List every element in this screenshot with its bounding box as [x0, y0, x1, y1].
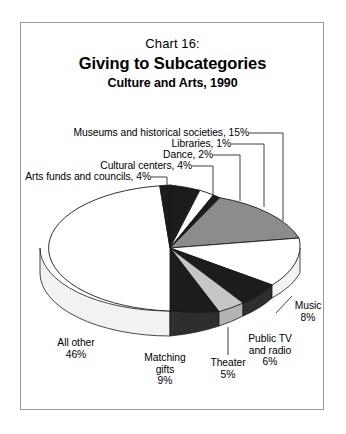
label-matching-line2: gifts — [156, 364, 175, 375]
label-music-name: Music — [295, 300, 322, 311]
leader-dance — [213, 155, 240, 201]
label-theater-name: Theater — [210, 357, 245, 368]
label-public-tv-line2: and radio — [249, 345, 292, 356]
label-dance: Dance, 2% — [103, 149, 213, 161]
label-matching-value: 9% — [158, 375, 173, 386]
label-music: Music 8% — [286, 300, 330, 323]
label-public-tv-line1: Public TV — [248, 333, 291, 344]
label-matching-line1: Matching — [144, 352, 185, 363]
label-theater: Theater 5% — [200, 357, 256, 380]
label-arts-funds: Arts funds and councils, 4% — [21, 171, 151, 183]
label-cultural-centers: Cultural centers, 4% — [72, 160, 192, 172]
leader-arts-funds — [151, 177, 167, 186]
label-libraries: Libraries, 1% — [101, 138, 231, 150]
chart-figure: Chart 16: Giving to Subcategories Cultur… — [0, 0, 346, 434]
label-music-value: 8% — [301, 312, 316, 323]
label-all-other-name: All other — [57, 337, 94, 348]
label-matching-gifts: Matching gifts 9% — [135, 352, 195, 387]
label-museums: Museums and historical societies, 15% — [49, 127, 249, 139]
label-all-other-value: 46% — [66, 349, 86, 360]
leader-libraries — [231, 144, 264, 207]
label-all-other: All other 46% — [45, 337, 107, 360]
label-theater-value: 5% — [221, 369, 236, 380]
label-public-tv-value: 6% — [263, 356, 278, 367]
